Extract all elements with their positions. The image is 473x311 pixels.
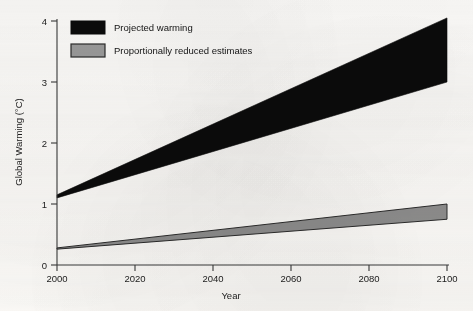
legend-swatch-projected-warming bbox=[71, 21, 105, 34]
y-tick-label-4: 4 bbox=[42, 16, 47, 27]
legend-item-proportionally-reduced-estimates: Proportionally reduced estimates bbox=[71, 44, 253, 57]
y-tick-label-3: 3 bbox=[42, 77, 47, 88]
x-tick-label-2100: 2100 bbox=[436, 273, 457, 284]
x-tick-label-2080: 2080 bbox=[358, 273, 379, 284]
legend: Projected warming Proportionally reduced… bbox=[71, 21, 253, 57]
y-tick-label-2: 2 bbox=[42, 138, 47, 149]
y-tick-label-1: 1 bbox=[42, 199, 47, 210]
legend-label-proportionally-reduced-estimates: Proportionally reduced estimates bbox=[114, 45, 253, 56]
x-axis-ticks: 200020202040206020802100 bbox=[46, 265, 457, 284]
legend-item-projected-warming: Projected warming bbox=[71, 21, 193, 34]
legend-label-projected-warming: Projected warming bbox=[114, 22, 193, 33]
legend-swatch-proportionally-reduced-estimates bbox=[71, 44, 105, 57]
y-axis-ticks: 01234 bbox=[42, 16, 57, 271]
x-axis-title: Year bbox=[221, 290, 240, 301]
series-band-proportionally-reduced-estimates bbox=[57, 204, 447, 249]
y-tick-label-0: 0 bbox=[42, 260, 47, 271]
chart-page: 01234 200020202040206020802100 Year Glob… bbox=[0, 0, 473, 311]
y-axis-title: Global Warming (°C) bbox=[13, 98, 24, 185]
x-tick-label-2020: 2020 bbox=[124, 273, 145, 284]
x-tick-label-2000: 2000 bbox=[46, 273, 67, 284]
x-tick-label-2040: 2040 bbox=[202, 273, 223, 284]
global-warming-projection-chart: 01234 200020202040206020802100 Year Glob… bbox=[0, 0, 473, 311]
x-tick-label-2060: 2060 bbox=[280, 273, 301, 284]
